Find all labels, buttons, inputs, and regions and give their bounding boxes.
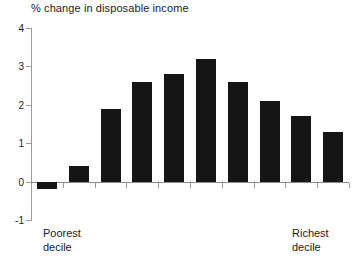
richest-line-1: Richest	[292, 226, 329, 240]
y-axis-tick-label: 3	[2, 61, 24, 72]
x-axis-tick	[158, 183, 159, 188]
bar	[291, 116, 311, 181]
y-axis-tick-label: 2	[2, 99, 24, 110]
x-axis-tick	[254, 183, 255, 188]
x-axis-tick	[285, 183, 286, 188]
x-axis-tick	[222, 183, 223, 188]
bar	[132, 82, 152, 182]
poorest-line-1: Poorest	[43, 226, 81, 240]
y-axis-tick-label-wrap: 2	[0, 105, 24, 106]
chart-container: % change in disposable income 43210-1 Po…	[0, 0, 358, 264]
y-axis-tick-label-wrap: 1	[0, 143, 24, 144]
y-axis-tick-label: 4	[2, 23, 24, 34]
x-axis-tick	[190, 183, 191, 188]
x-axis-tick	[95, 183, 96, 188]
y-axis-tick	[26, 143, 32, 144]
x-axis-tick	[63, 183, 64, 188]
y-axis-tick-label: 0	[2, 176, 24, 187]
poorest-line-2: decile	[43, 240, 81, 254]
y-axis-tick	[26, 66, 32, 67]
y-axis-tick-label: 1	[2, 138, 24, 149]
y-axis-tick-label-wrap: 4	[0, 28, 24, 29]
category-label-richest: Richest decile	[292, 226, 329, 254]
y-axis-tick-label-wrap: -1	[0, 220, 24, 221]
richest-line-2: decile	[292, 240, 329, 254]
x-axis-tick	[349, 183, 350, 188]
x-axis-tick	[317, 183, 318, 188]
bar	[101, 109, 121, 182]
bar	[69, 166, 89, 181]
bar	[323, 132, 343, 182]
bar	[37, 182, 57, 190]
bar	[260, 101, 280, 182]
y-axis-tick	[26, 220, 32, 221]
y-axis-tick-label-wrap: 3	[0, 66, 24, 67]
bar	[228, 82, 248, 182]
y-axis-tick	[26, 105, 32, 106]
y-axis-tick-label: -1	[2, 215, 24, 226]
y-axis-tick	[26, 28, 32, 29]
y-axis-tick-label-wrap: 0	[0, 182, 24, 183]
bar	[164, 74, 184, 182]
chart-title: % change in disposable income	[31, 2, 189, 14]
bar	[196, 59, 216, 182]
category-label-poorest: Poorest decile	[43, 226, 81, 254]
x-axis-tick	[126, 183, 127, 188]
y-axis-line	[31, 28, 32, 221]
